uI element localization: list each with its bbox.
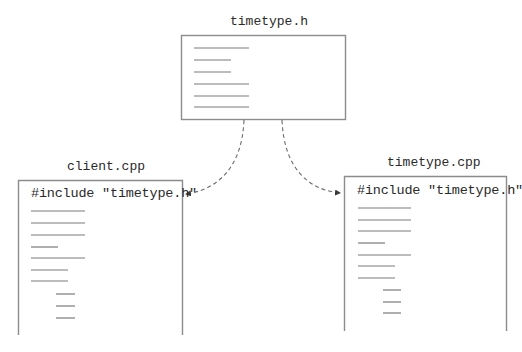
- impl-include-directive: #include "timetype.h": [357, 184, 522, 198]
- include-arrows: [186, 120, 340, 194]
- include-arrow: [186, 120, 244, 194]
- include-arrow: [282, 120, 340, 193]
- client-file-title: client.cpp: [67, 160, 145, 174]
- header-file-box: [182, 36, 346, 120]
- impl-file-title: timetype.cpp: [387, 156, 481, 170]
- diagram-graphics: [0, 0, 522, 352]
- client-include-directive: #include "timetype.h": [31, 187, 197, 201]
- include-dependency-diagram: timetype.h client.cpp #include "timetype…: [0, 0, 522, 352]
- header-file-title: timetype.h: [230, 15, 308, 29]
- client-file-box: [19, 181, 183, 336]
- impl-file-box: [345, 177, 507, 332]
